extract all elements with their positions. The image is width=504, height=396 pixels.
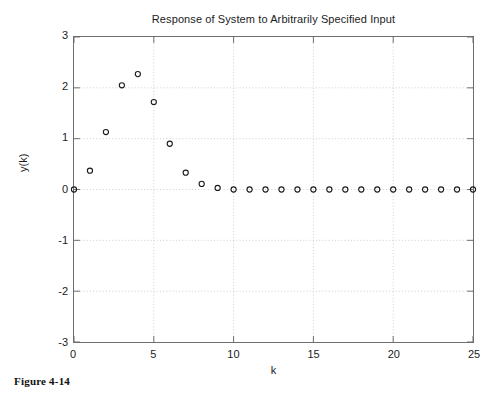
data-point [391, 187, 396, 192]
data-point [423, 187, 428, 192]
y-tick-label: 0 [38, 183, 68, 195]
data-point [183, 170, 188, 175]
data-point [71, 187, 76, 192]
data-point [103, 129, 108, 134]
data-point [167, 141, 172, 146]
data-point [247, 187, 252, 192]
data-point [407, 187, 412, 192]
data-point [215, 185, 220, 190]
data-point [311, 187, 316, 192]
y-tick-label: -3 [38, 336, 68, 348]
x-tick-label: 0 [58, 348, 88, 360]
y-axis-label: y(k) [17, 154, 29, 172]
figure-caption: Figure 4-14 [14, 375, 70, 387]
data-series-points [74, 37, 473, 342]
data-point [87, 168, 92, 173]
chart-title: Response of System to Arbitrarily Specif… [73, 13, 474, 25]
x-axis-label: k [73, 364, 474, 376]
data-point [438, 187, 443, 192]
data-point [295, 187, 300, 192]
data-point [231, 187, 236, 192]
y-tick-label: 1 [38, 131, 68, 143]
data-point [375, 187, 380, 192]
data-point [135, 72, 140, 77]
y-tick-label: 3 [38, 29, 68, 41]
data-point [151, 99, 156, 104]
y-tick-label: -1 [38, 234, 68, 246]
data-point [199, 181, 204, 186]
data-point [327, 187, 332, 192]
x-tick-label: 20 [379, 348, 409, 360]
x-tick-label: 10 [218, 348, 248, 360]
data-point [119, 83, 124, 88]
data-point [454, 187, 459, 192]
y-tick-label: 2 [38, 80, 68, 92]
y-tick-label: -2 [38, 285, 68, 297]
x-tick-label: 5 [138, 348, 168, 360]
x-tick-label: 25 [459, 348, 489, 360]
data-point [263, 187, 268, 192]
data-point [343, 187, 348, 192]
data-point [279, 187, 284, 192]
x-tick-label: 15 [299, 348, 329, 360]
plot-area [73, 36, 474, 343]
data-point [359, 187, 364, 192]
figure-container: Response of System to Arbitrarily Specif… [0, 0, 504, 396]
